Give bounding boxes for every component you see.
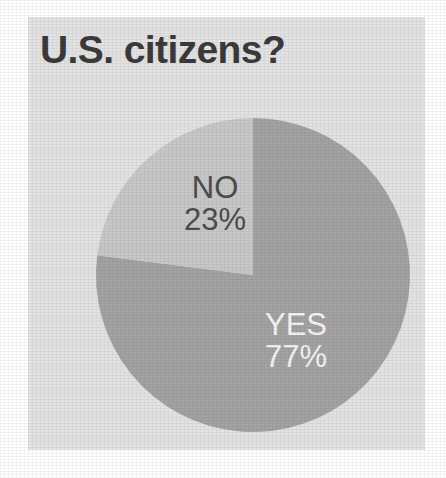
pie-slice-label-no-name: NO <box>160 172 270 204</box>
pie-chart-svg <box>0 0 446 478</box>
pie-slice-label-yes-name: YES <box>236 309 356 341</box>
pie-slice-label-yes: YES 77% <box>236 309 356 373</box>
pie-slice-label-yes-value: 77% <box>236 341 356 373</box>
pie-chart-figure: U.S. citizens? NO 23% YES 77% <box>0 0 446 478</box>
pie-slice-label-no: NO 23% <box>160 172 270 236</box>
pie-slice-label-no-value: 23% <box>160 204 270 236</box>
